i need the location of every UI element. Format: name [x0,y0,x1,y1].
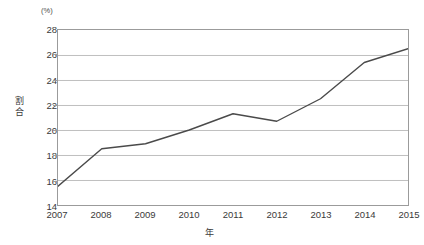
x-axis-tick-label: 2012 [257,209,297,220]
x-axis-tick-label: 2010 [169,209,209,220]
x-axis-tick-label: 2015 [389,209,424,220]
x-axis-tick-label: 2013 [301,209,341,220]
x-axis-tick-label: 2009 [125,209,165,220]
y-axis-tick-label: 28 [31,24,57,35]
x-axis-title: 年 [0,226,419,239]
x-axis-tick-label: 2008 [81,209,121,220]
x-axis-tick-label: 2011 [213,209,253,220]
y-axis-title: 割 合 [13,96,25,117]
y-axis-title-char-2: 合 [13,107,25,118]
plot-area [57,29,409,206]
y-axis-unit-label: (%) [41,6,53,15]
y-axis-title-char-1: 割 [13,96,25,107]
x-axis-tick-label: 2007 [37,209,77,220]
data-line-series [58,30,408,205]
x-axis-tick-label: 2014 [345,209,385,220]
